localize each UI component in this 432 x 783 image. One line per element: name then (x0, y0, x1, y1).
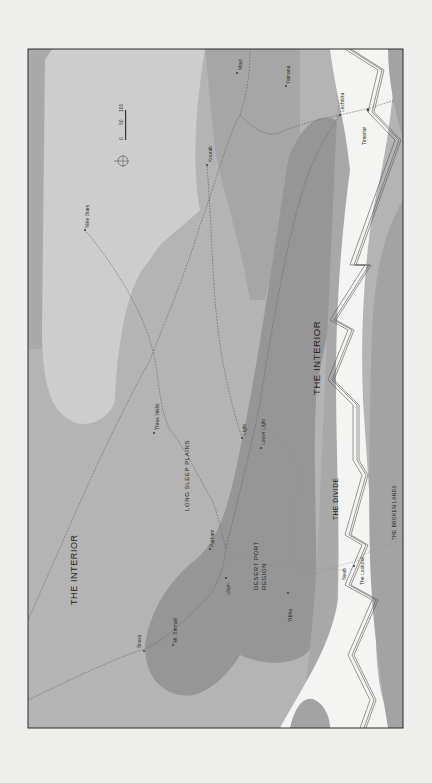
place-label-lower-light: Lower Light (260, 419, 266, 445)
svg-text:100: 100 (118, 103, 124, 112)
place-label-yamana: Yamana (285, 66, 291, 84)
region-label-the-interior-west: THE INTERIOR (69, 534, 79, 605)
map-terrain: 0 50 100 THE INTERIOR THE INTERIOR LONG … (28, 49, 403, 728)
place-label-ulum: Ulum (225, 583, 231, 595)
place-label-kourab: Kourab (207, 146, 213, 162)
svg-text:0: 0 (118, 137, 124, 140)
place-label-ytbha: Ytbha (287, 609, 293, 622)
place-label-lechnira: Lechnira (339, 93, 345, 112)
region-label-desert-port-line1: DESERT PORT (253, 541, 259, 590)
place-label-parham: Parham (209, 529, 215, 547)
place-label-nine-stars: Nine Stars (84, 204, 90, 228)
place-label-neeb: Neeb (341, 568, 347, 580)
place-label-tinterlar: Tinterlar (361, 127, 367, 145)
place-label-mt-bimnah: Mt. Bimnah (172, 617, 178, 643)
place-label-the-lookout: The Lookout (359, 557, 365, 585)
place-label-brava: Brava (136, 635, 142, 648)
region-label-the-interior-east: THE INTERIOR (311, 321, 322, 395)
place-label-mayr: Mayr (237, 59, 243, 70)
svg-text:50: 50 (118, 119, 124, 125)
place-label-three-wells: Three Wells (154, 403, 160, 430)
region-label-long-sleep-plains: LONG SLEEP PLAINS (184, 440, 190, 511)
place-label-light: Light (241, 424, 247, 435)
region-label-the-broken-lands: THE BROKEN LANDS (392, 485, 397, 540)
region-label-the-divide: THE DIVIDE (332, 477, 339, 520)
map-canvas: 0 50 100 THE INTERIOR THE INTERIOR LONG … (0, 0, 432, 783)
region-label-desert-port-line2: REGION (261, 563, 267, 590)
